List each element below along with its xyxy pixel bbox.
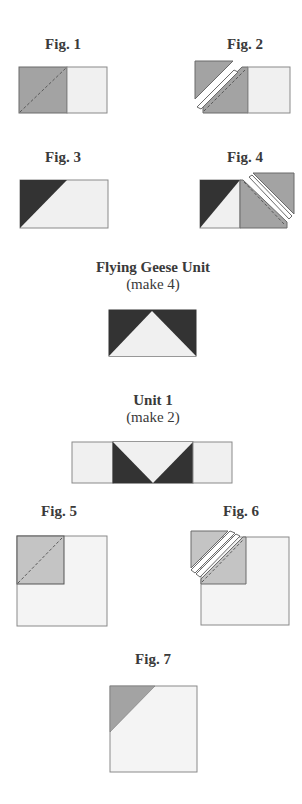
flying-geese-diagram: [109, 310, 196, 356]
fig3-diagram: [20, 180, 108, 228]
fig5-diagram: [17, 536, 107, 626]
fig6-diagram: [191, 531, 289, 625]
fig1-diagram: [19, 67, 107, 113]
fig2-diagram: [195, 61, 290, 113]
quilt-diagram-canvas: [0, 0, 302, 804]
unit1-diagram: [72, 442, 232, 483]
fig4-diagram: [200, 173, 294, 228]
fig7-diagram: [110, 686, 197, 772]
